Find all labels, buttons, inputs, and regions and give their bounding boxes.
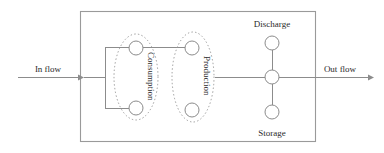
block-flow-diagram: In flow Out flow Discharge Storage Consu…	[0, 0, 384, 153]
consumption-label: Consumption	[146, 52, 156, 101]
storage-node	[265, 105, 279, 119]
production-label: Production	[202, 56, 212, 96]
consumption-node-bottom	[129, 101, 143, 115]
junction-node	[265, 70, 279, 84]
discharge-label: Discharge	[254, 19, 290, 29]
system-boundary-box	[81, 12, 316, 142]
consumption-node-top	[129, 41, 143, 55]
in-flow-label: In flow	[35, 64, 62, 74]
production-node-bottom	[185, 103, 199, 117]
out-flow-arrowhead	[368, 75, 374, 81]
discharge-node	[265, 36, 279, 50]
storage-label: Storage	[258, 128, 286, 138]
out-flow-label: Out flow	[324, 64, 357, 74]
figure-root: In flow Out flow Discharge Storage Consu…	[0, 0, 384, 153]
production-node-top	[185, 41, 199, 55]
